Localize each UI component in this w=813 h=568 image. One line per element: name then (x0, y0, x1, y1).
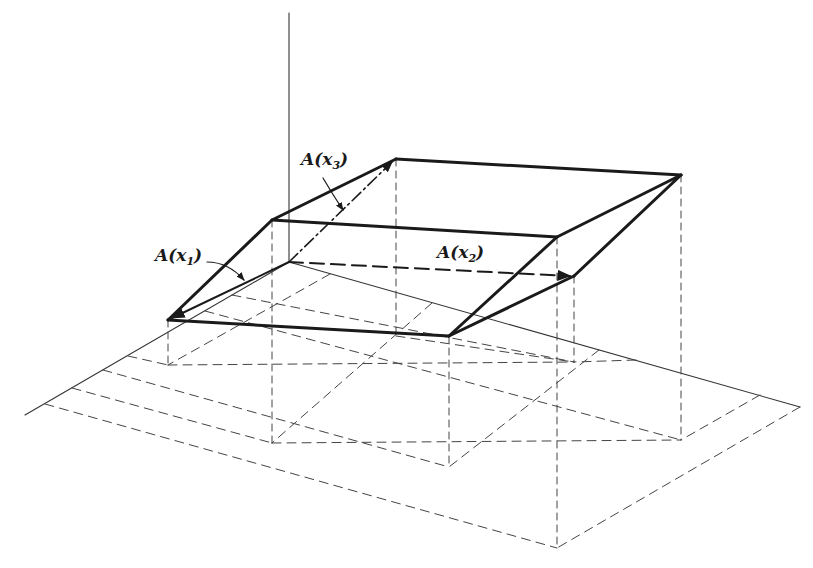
floor-line (168, 274, 330, 365)
floor-line (396, 336, 574, 362)
floor-line (557, 407, 800, 548)
label-a-x2-prefix: A(x (437, 242, 468, 262)
floor-line (681, 395, 760, 440)
label-a-x2-sub: 2 (468, 252, 476, 265)
floor-line (449, 350, 599, 467)
floor-line (45, 404, 557, 548)
label-a-x2-suffix: ) (476, 242, 484, 262)
floor-line (168, 362, 574, 365)
label-a-x2: A(x2) (437, 242, 484, 265)
label-a-x1: A(x1) (155, 245, 202, 268)
edge-p1-p2-p3 (168, 159, 396, 320)
y-axis (289, 262, 800, 407)
label-a-x1-prefix: A(x (155, 245, 186, 265)
vector-a-x3 (289, 162, 392, 262)
floor-line (272, 303, 432, 443)
edge-p3-p4 (396, 159, 681, 175)
box-edges (168, 159, 681, 336)
x-axis (25, 262, 289, 415)
diagram-canvas (0, 0, 813, 568)
floor-line (72, 388, 272, 443)
edge-p1-p6 (168, 320, 449, 336)
label-a-x1-suffix: ) (194, 245, 202, 265)
vector-a-x1 (172, 262, 289, 318)
label-a-x3: A(x3) (301, 149, 348, 172)
edge-p5-p4 (557, 175, 681, 237)
label-a-x1-sub: 1 (186, 255, 194, 268)
floor-line (128, 356, 168, 365)
floor-line (103, 370, 449, 467)
vertical-projection-lines (168, 159, 681, 548)
floor-grid-y-direction (45, 295, 681, 548)
floor-line (272, 440, 681, 443)
label-a-x3-prefix: A(x (301, 149, 332, 169)
label-a-x3-sub: 3 (332, 159, 340, 172)
axes (25, 13, 800, 415)
edge-p6-p7 (449, 276, 574, 336)
label-a-x3-suffix: ) (340, 149, 348, 169)
floor-line (205, 311, 681, 440)
edge-p7-p4 (574, 175, 681, 276)
floor-grid-x-direction (168, 274, 800, 548)
floor-line (574, 360, 636, 362)
edge-p2-p5 (272, 220, 557, 237)
